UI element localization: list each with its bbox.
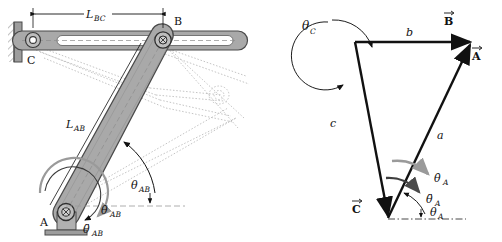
angle-arc-theta-a	[404, 193, 425, 217]
label-theta-ab: θ AB	[131, 179, 150, 194]
label-joint-c: C	[27, 54, 35, 67]
label-lbc: L BC	[85, 8, 106, 23]
label-vector-b: B	[444, 11, 454, 28]
svg-text:BC: BC	[93, 14, 106, 23]
joint-b	[155, 32, 171, 48]
svg-text:θ̈: θ̈	[426, 193, 433, 206]
svg-text:A: A	[434, 199, 441, 208]
svg-text:AB: AB	[109, 210, 121, 219]
ghost-slot-link	[160, 46, 249, 84]
label-lab: L AB	[65, 118, 85, 133]
label-side-a: a	[437, 129, 444, 142]
label-side-c: c	[330, 117, 336, 130]
svg-text:A: A	[442, 178, 449, 187]
label-vector-a: A	[471, 46, 482, 63]
ghost-fan	[163, 43, 244, 128]
svg-text:AB: AB	[91, 229, 103, 238]
svg-text:AB: AB	[138, 185, 150, 194]
figure-canvas: C B A L BC L AB θ AB θ̇ AB	[0, 0, 502, 242]
svg-text:B: B	[444, 15, 453, 28]
link-bc-slotted	[13, 31, 248, 50]
vector-c	[355, 42, 388, 216]
diagram-svg: C B A L BC L AB θ AB θ̇ AB	[0, 0, 502, 242]
svg-text:C: C	[352, 203, 361, 216]
label-side-b: b	[406, 26, 413, 39]
label-vector-c: C	[352, 199, 362, 216]
svg-text:θ̈: θ̈	[83, 223, 90, 236]
vector-loop-triangle	[291, 20, 470, 219]
linkage-mechanism	[8, 8, 249, 235]
svg-text:L: L	[65, 118, 73, 131]
svg-text:θ: θ	[131, 179, 138, 192]
label-theta-a: θ A	[430, 206, 444, 221]
svg-text:θ: θ	[302, 19, 310, 33]
svg-text:θ̇: θ̇	[101, 204, 108, 217]
joint-c	[26, 33, 41, 48]
svg-text:AB: AB	[73, 124, 85, 133]
svg-text:L: L	[85, 8, 93, 21]
label-joint-a: A	[39, 216, 49, 229]
svg-text:θ̇: θ̇	[434, 172, 441, 185]
svg-text:A: A	[437, 212, 444, 221]
label-thetadot-a: θ̇ A	[434, 172, 449, 187]
label-joint-b: B	[174, 15, 182, 28]
svg-text:C: C	[310, 27, 316, 36]
label-thetaddot-ab: θ̈ AB	[83, 223, 103, 238]
label-theta-c: θ C	[302, 19, 316, 36]
svg-text:A: A	[471, 50, 481, 63]
